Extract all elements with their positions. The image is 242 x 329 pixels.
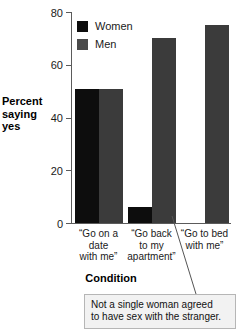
legend-label-men: Men [95,39,116,50]
y-tick-0: 0 [66,223,71,224]
x-axis-line [71,223,231,224]
y-tick-40: 40 [66,118,71,119]
x-category-label-line: with me” [170,240,239,252]
y-tick-label: 60 [51,60,63,71]
zero-women-callout: Not a single woman agreed to have sex wi… [84,294,236,329]
x-category-label-line: apartment” [117,251,186,263]
y-axis-title-line-1: Percent [2,95,58,108]
y-axis-title: Percent saying yes [2,95,58,133]
legend-label-women: Women [95,21,133,32]
bar-men-2 [152,38,176,223]
gray-square-icon [77,39,88,50]
legend-entry-men: Men [77,36,157,52]
y-tick-80: 80 [66,12,71,13]
bar-group-3 [181,12,229,223]
y-tick-20: 20 [66,170,71,171]
y-tick-label: 80 [51,7,63,18]
y-tick-mark [66,118,71,119]
legend-entry-women: Women [77,18,157,34]
y-axis-title-line-3: yes [2,120,58,133]
y-axis-title-line-2: saying [2,108,58,121]
y-tick-label: 40 [51,113,63,124]
bar-women-1 [75,89,99,224]
y-tick-60: 60 [66,65,71,66]
y-tick-mark [66,223,71,224]
callout-line-1: Not a single woman agreed [91,299,230,311]
y-tick-mark [66,12,71,13]
y-tick-mark [66,170,71,171]
bar-men-3 [205,25,229,223]
y-tick-label: 0 [57,218,63,229]
chart-legend: Women Men [77,18,157,54]
black-square-icon [77,21,88,32]
bar-women-2 [128,207,152,223]
x-category-label-line: “Go to bed [170,228,239,240]
callout-line-2: to have sex with the stranger. [91,311,230,323]
x-category-label-3: “Go to bedwith me” [170,228,239,251]
bar-men-1 [99,89,123,224]
y-tick-mark [66,65,71,66]
x-axis-title: Condition [0,272,222,284]
y-tick-label: 20 [51,165,63,176]
